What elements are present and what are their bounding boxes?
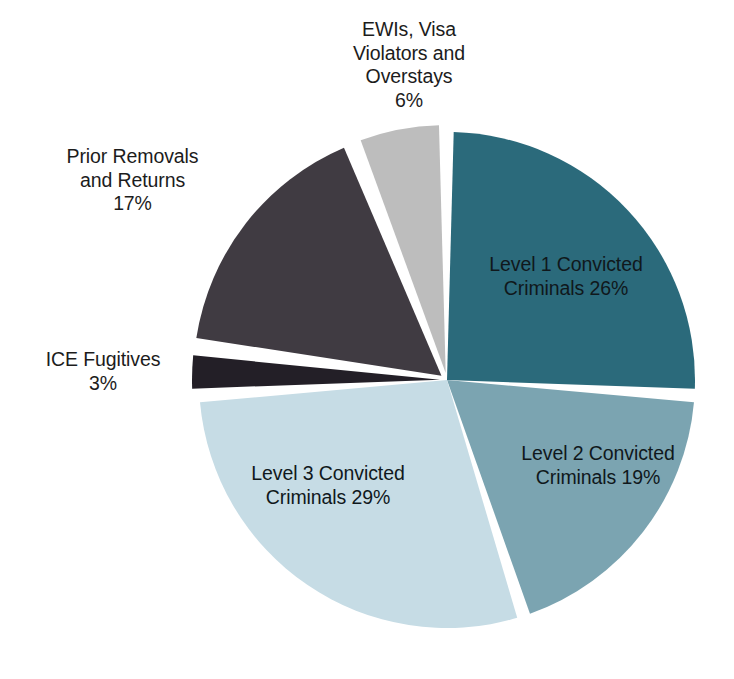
slice-label-level-1-convicted-criminals: Level 1 Convicted Criminals 26% bbox=[453, 253, 679, 300]
pie-slice-group bbox=[192, 125, 695, 628]
slice-label-level-2-convicted-criminals: Level 2 Convicted Criminals 19% bbox=[485, 442, 711, 489]
slice-label-level-3-convicted-criminals: Level 3 Convicted Criminals 29% bbox=[204, 462, 452, 509]
slice-label-ewis-visa-violators-overstays: EWIs, Visa Violators and Overstays 6% bbox=[289, 18, 529, 112]
slice-label-prior-removals-and-returns: Prior Removals and Returns 17% bbox=[6, 145, 259, 216]
pie-chart-figure: EWIs, Visa Violators and Overstays 6% Pr… bbox=[0, 0, 734, 679]
slice-label-ice-fugitives: ICE Fugitives 3% bbox=[0, 348, 210, 395]
